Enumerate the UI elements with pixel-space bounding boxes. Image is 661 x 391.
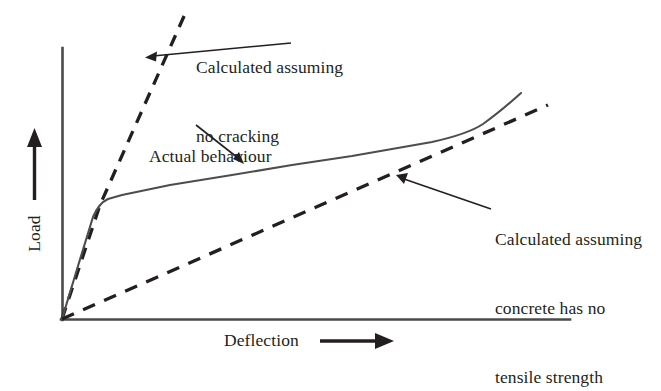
annotation-actual-behaviour: Actual behaviour	[149, 99, 272, 214]
annotation-no-tensile-strength-line1: Calculated assuming	[495, 228, 642, 251]
y-axis-label: Load	[23, 188, 46, 280]
x-axis-label: Deflection	[224, 329, 299, 352]
leader-no-tensile-strength	[396, 173, 491, 209]
leader-no-tensile-strength-line	[404, 179, 491, 209]
annotation-no-tensile-strength-line2: concrete has no	[495, 297, 642, 320]
leader-no-tensile-strength-arrowhead	[396, 173, 408, 184]
x-axis-arrow-icon	[320, 333, 394, 349]
leader-no-cracking-arrowhead	[145, 52, 157, 62]
annotation-no-tensile-strength: Calculated assuming concrete has no tens…	[495, 182, 642, 391]
y-axis-label-wrapper: Load	[13, 190, 55, 282]
annotation-no-tensile-strength-line3: tensile strength	[495, 366, 642, 389]
annotation-no-cracking-line1: Calculated assuming	[196, 56, 343, 79]
annotation-actual-behaviour-line1: Actual behaviour	[149, 145, 272, 168]
x-axis-arrow-head	[375, 333, 394, 349]
y-axis-arrow-head	[27, 128, 42, 147]
